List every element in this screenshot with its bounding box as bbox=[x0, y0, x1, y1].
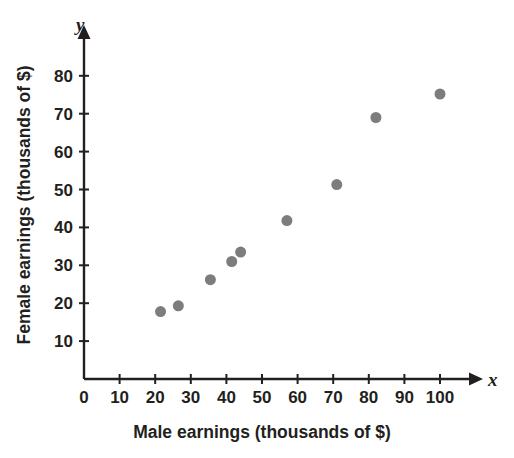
data-point bbox=[281, 215, 292, 226]
x-tick-label-0: 0 bbox=[79, 388, 88, 407]
x-tick-label-60: 60 bbox=[288, 388, 307, 407]
y-tick-label-50: 50 bbox=[54, 181, 73, 200]
y-tick-label-60: 60 bbox=[54, 143, 73, 162]
x-tick-label-100: 100 bbox=[426, 388, 454, 407]
x-axis-title: Male earnings (thousands of $) bbox=[133, 422, 391, 442]
scatter-chart: 0102030405060708090100 1020304050607080 … bbox=[0, 0, 514, 458]
y-axis-title: Female earnings (thousands of $) bbox=[14, 65, 34, 344]
data-point bbox=[205, 274, 216, 285]
data-point bbox=[226, 256, 237, 267]
x-axis-letter: x bbox=[487, 369, 498, 390]
x-tick-label-90: 90 bbox=[395, 388, 414, 407]
data-point bbox=[235, 247, 246, 258]
x-tick-label-20: 20 bbox=[146, 388, 165, 407]
y-tick-label-10: 10 bbox=[54, 332, 73, 351]
y-axis-letter: y bbox=[74, 14, 85, 35]
data-point bbox=[435, 88, 446, 99]
x-tick-label-10: 10 bbox=[110, 388, 129, 407]
y-tick-label-30: 30 bbox=[54, 256, 73, 275]
y-tick-label-20: 20 bbox=[54, 294, 73, 313]
y-tick-label-70: 70 bbox=[54, 105, 73, 124]
y-tick-label-80: 80 bbox=[54, 67, 73, 86]
y-tick-label-40: 40 bbox=[54, 218, 73, 237]
x-tick-label-50: 50 bbox=[253, 388, 272, 407]
x-tick-label-30: 30 bbox=[181, 388, 200, 407]
x-tick-label-70: 70 bbox=[324, 388, 343, 407]
x-tick-label-40: 40 bbox=[217, 388, 236, 407]
x-tick-label-80: 80 bbox=[359, 388, 378, 407]
data-point bbox=[370, 112, 381, 123]
data-point bbox=[155, 306, 166, 317]
data-point bbox=[173, 300, 184, 311]
data-point bbox=[331, 179, 342, 190]
